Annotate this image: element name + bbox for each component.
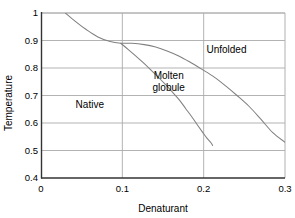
y-tick-label: 0.9 (25, 35, 38, 46)
region-label: Molten (154, 70, 184, 81)
y-tick-label: 0.8 (25, 62, 38, 73)
y-axis-title: Temperature (3, 74, 14, 131)
y-tick-label: 0.4 (25, 172, 38, 183)
phase-diagram-chart: 0.40.50.60.70.80.91 00.10.20.3 NativeMol… (0, 0, 295, 218)
x-axis-title: Denaturant (138, 203, 188, 214)
x-tick-label: 0.2 (197, 183, 210, 194)
region-label: Native (76, 99, 105, 110)
region-label: Unfolded (206, 44, 246, 55)
y-tick-label: 1 (33, 7, 38, 18)
y-axis-tick-labels: 0.40.50.60.70.80.91 (25, 7, 38, 183)
y-tick-label: 0.5 (25, 145, 38, 156)
y-tick-label: 0.6 (25, 117, 38, 128)
x-axis-tick-labels: 00.10.20.3 (38, 183, 291, 194)
y-tick-label: 0.7 (25, 90, 38, 101)
region-label: globule (153, 82, 186, 93)
chart-canvas: 0.40.50.60.70.80.91 00.10.20.3 NativeMol… (0, 0, 295, 218)
x-tick-label: 0.1 (116, 183, 129, 194)
x-tick-label: 0 (38, 183, 43, 194)
x-tick-label: 0.3 (278, 183, 291, 194)
